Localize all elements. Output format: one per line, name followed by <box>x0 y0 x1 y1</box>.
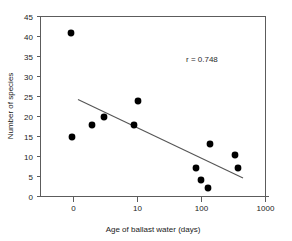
chart-canvas: 45 40 35 30 25 20 15 10 5 0 0 10 100 100… <box>0 0 292 241</box>
data-point <box>198 177 205 184</box>
y-axis-tick-labels: 45 40 35 30 25 20 15 10 5 0 <box>24 13 33 202</box>
data-point <box>207 141 214 148</box>
data-point <box>69 134 76 141</box>
data-point <box>135 98 142 105</box>
y-axis-title: Number of species <box>6 73 15 140</box>
y-tick-label-30: 30 <box>24 73 33 82</box>
data-point <box>101 114 108 121</box>
correlation-annotation: r = 0.748 <box>186 55 218 64</box>
x-tick-label-1000: 1000 <box>257 204 275 213</box>
x-axis-title: Age of ballast water (days) <box>106 225 201 234</box>
regression-line <box>78 100 243 179</box>
plot-frame <box>37 17 269 197</box>
y-tick-label-40: 40 <box>24 33 33 42</box>
x-axis-tick-labels: 0 10 100 1000 <box>71 204 275 213</box>
x-tick-label-100: 100 <box>195 204 209 213</box>
y-tick-label-45: 45 <box>24 13 33 22</box>
data-point <box>235 165 242 172</box>
data-points <box>68 30 242 192</box>
y-tick-label-5: 5 <box>29 173 34 182</box>
x-tick-label-10: 10 <box>133 204 142 213</box>
y-tick-label-0: 0 <box>29 193 34 202</box>
y-tick-label-15: 15 <box>24 133 33 142</box>
data-point <box>205 185 212 192</box>
data-point <box>131 122 138 129</box>
data-point <box>232 152 239 159</box>
y-tick-label-20: 20 <box>24 113 33 122</box>
x-axis-ticks <box>74 197 266 202</box>
data-point <box>89 122 96 129</box>
y-tick-label-35: 35 <box>24 53 33 62</box>
y-axis-ticks <box>37 17 41 197</box>
scatter-plot-figure: 45 40 35 30 25 20 15 10 5 0 0 10 100 100… <box>0 0 292 241</box>
x-tick-label-0: 0 <box>71 204 76 213</box>
data-point <box>68 30 75 37</box>
y-tick-label-10: 10 <box>24 153 33 162</box>
data-point <box>193 165 200 172</box>
y-tick-label-25: 25 <box>24 93 33 102</box>
